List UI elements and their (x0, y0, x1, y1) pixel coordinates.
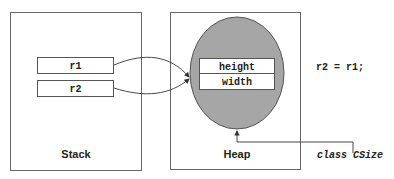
field-height: height (219, 62, 255, 73)
object-fields: height width (200, 59, 275, 90)
stack-label: Stack (61, 148, 91, 160)
assignment-code: r2 = r1; (316, 62, 364, 73)
heap-label: Heap (224, 148, 251, 160)
stack-region: r1 r2 Stack (11, 13, 142, 171)
stack-var-r1: r1 (38, 58, 114, 74)
field-width: width (222, 77, 252, 88)
stack-var-label: r1 (69, 61, 81, 72)
stack-heap-diagram: r1 r2 Stack height width Heap r2 = r1; c… (0, 0, 394, 179)
heap-region: height width Heap (171, 13, 301, 170)
class-label: class CSize (317, 150, 383, 161)
stack-var-r2: r2 (38, 81, 114, 97)
stack-var-label: r2 (69, 84, 81, 95)
